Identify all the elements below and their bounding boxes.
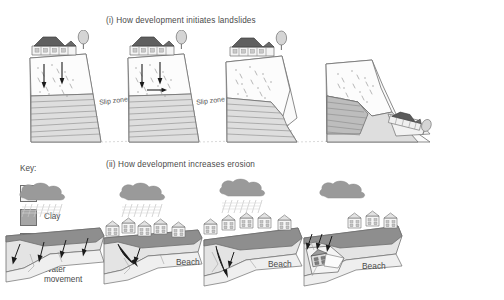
diagram-canvas: (i) How development initiates landslides… xyxy=(0,0,504,300)
cloud-2 xyxy=(120,183,165,200)
rain-3 xyxy=(222,200,262,213)
landslide-panel-4 xyxy=(326,60,433,142)
landslide-panel-2 xyxy=(128,30,238,142)
landslide-row-graphic xyxy=(0,30,504,150)
beach-label-2: Beach xyxy=(268,259,292,269)
erosion-row-graphic xyxy=(0,176,504,298)
section-title-landslides: (i) How development initiates landslides xyxy=(106,16,256,25)
key-heading: Key: xyxy=(20,164,36,173)
landslide-panel-1 xyxy=(30,30,140,142)
landslide-panel-3 xyxy=(226,31,338,142)
houses-row-2 xyxy=(106,218,185,237)
section-title-erosion: (ii) How development increases erosion xyxy=(106,160,255,169)
houses-row-4 xyxy=(348,211,397,228)
cloud-3 xyxy=(220,179,265,196)
beach-label-1: Beach xyxy=(176,257,200,267)
cloud-1 xyxy=(20,183,65,200)
rain-1 xyxy=(22,204,62,217)
rain-2 xyxy=(122,204,162,217)
erosion-panel-3 xyxy=(204,179,302,286)
cloud-4 xyxy=(320,181,365,198)
erosion-panel-4 xyxy=(304,181,402,286)
erosion-panel-2 xyxy=(104,183,202,284)
erosion-panel-1 xyxy=(6,183,104,282)
beach-label-3: Beach xyxy=(362,261,386,271)
